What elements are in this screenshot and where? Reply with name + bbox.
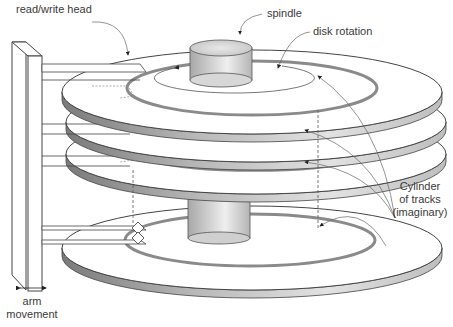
arm-assembly bbox=[12, 42, 42, 291]
read-write-arm bbox=[42, 64, 146, 72]
label-disk-rotation: disk rotation bbox=[313, 25, 372, 38]
label-arm-line2: movement bbox=[4, 308, 60, 321]
spindle bbox=[190, 40, 252, 87]
label-cylinder-line2: of tracks bbox=[385, 193, 453, 206]
label-cylinder-line1: Cylinder bbox=[385, 180, 453, 193]
label-arm-movement: arm movement bbox=[4, 295, 60, 321]
arm-block-side bbox=[12, 42, 26, 290]
label-cylinder-line3: (imaginary) bbox=[385, 206, 453, 219]
arm-block-front bbox=[28, 56, 42, 291]
platter-4 bbox=[62, 206, 442, 298]
label-read-write-head: read/write head bbox=[16, 3, 92, 16]
label-spindle: spindle bbox=[267, 7, 302, 20]
label-cylinder: Cylinder of tracks (imaginary) bbox=[385, 180, 453, 219]
disk-drive-diagram bbox=[0, 0, 453, 327]
spindle-top bbox=[190, 40, 252, 56]
label-arm-line1: arm bbox=[4, 295, 60, 308]
